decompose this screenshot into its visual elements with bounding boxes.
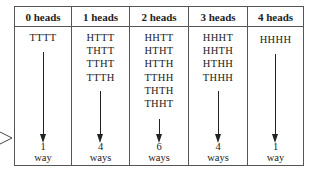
count-number: 1 <box>15 141 71 152</box>
column-3-heads: 3 heads HHHT HHTH HTHH THHH 4 ways <box>188 7 247 165</box>
count-unit: ways <box>189 152 247 163</box>
outcome: HHHH <box>248 33 303 46</box>
outcome: THHH <box>189 71 247 84</box>
outcome-list: TTTT <box>15 27 71 44</box>
outcome: HTTH <box>130 57 188 70</box>
outcome: TTHH <box>130 71 188 84</box>
column-header: 2 heads <box>130 7 188 27</box>
outcome: THTH <box>130 84 188 97</box>
count-unit: ways <box>72 152 129 163</box>
outcome: TTTT <box>15 31 71 44</box>
column-1-heads: 1 heads HTTT THTT TTHT TTTH 4 ways <box>71 7 129 165</box>
outcome: HTTT <box>72 31 129 44</box>
column-header: 4 heads <box>248 7 303 27</box>
column-header: 1 heads <box>72 7 129 27</box>
outcome: HHTH <box>189 44 247 57</box>
outcome: TTHT <box>72 57 129 70</box>
coin-outcomes-table: 0 heads TTTT 1 way 1 heads HTTT THTT TTH… <box>14 6 304 166</box>
column-header: 0 heads <box>15 7 71 27</box>
outcome-list: HHHH <box>248 27 303 46</box>
outcome: THTT <box>72 44 129 57</box>
outcome-list: HTTT THTT TTHT TTTH <box>72 27 129 84</box>
outcome: HHHT <box>189 31 247 44</box>
count-unit: way <box>15 152 71 163</box>
column-0-heads: 0 heads TTTT 1 way <box>15 7 71 165</box>
count-unit: ways <box>130 152 188 163</box>
column-2-heads: 2 heads HHTT HTHT HTTH TTHH THTH THHT 6 … <box>129 7 188 165</box>
count-unit: way <box>248 152 303 163</box>
count-number: 6 <box>130 141 188 152</box>
outcome: HTHH <box>189 57 247 70</box>
outcome: HTHT <box>130 44 188 57</box>
outcome-list: HHTT HTHT HTTH TTHH THTH THHT <box>130 27 188 110</box>
outcome: THHT <box>130 97 188 110</box>
pointer-arrow-icon <box>0 130 14 146</box>
column-header: 3 heads <box>189 7 247 27</box>
outcome: TTTH <box>72 71 129 84</box>
outcome-list: HHHT HHTH HTHH THHH <box>189 27 247 84</box>
outcome: HHTT <box>130 31 188 44</box>
count-number: 4 <box>72 141 129 152</box>
count-number: 4 <box>189 141 247 152</box>
count-number: 1 <box>248 141 303 152</box>
column-4-heads: 4 heads HHHH 1 way <box>247 7 303 165</box>
